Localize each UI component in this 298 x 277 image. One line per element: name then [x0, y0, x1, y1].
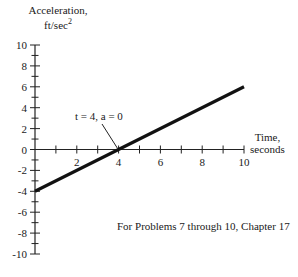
acceleration-line [35, 87, 244, 192]
x-tick-label: 4 [116, 156, 122, 168]
y-tick-label: 2 [22, 123, 28, 135]
x-tick-label: 8 [199, 156, 205, 168]
y-tick-label: 4 [22, 102, 28, 114]
y-tick-label: -10 [12, 248, 27, 260]
x-tick-label: 2 [74, 156, 80, 168]
x-axis-label: Time, seconds [250, 131, 285, 155]
x-axis-label-line2: seconds [250, 143, 285, 155]
zero-crossing-annotation: t = 4, a = 0 [75, 110, 123, 122]
y-tick-label: 8 [22, 60, 28, 72]
y-tick-label: -6 [18, 206, 28, 218]
x-tick-label: 10 [239, 156, 251, 168]
y-axis-label: Acceleration, ft/sec2 [18, 4, 98, 31]
y-tick-label: 10 [16, 39, 28, 51]
y-tick-label: 6 [22, 81, 28, 93]
x-axis-label-line1: Time, [250, 131, 285, 143]
y-axis-unit-exponent: 2 [68, 17, 72, 26]
y-tick-label: -8 [18, 227, 28, 239]
y-axis-label-line1: Acceleration, [29, 4, 88, 16]
x-tick-label: 6 [158, 156, 164, 168]
y-tick-label: -2 [18, 164, 27, 176]
y-axis-label-line2: ft/sec2 [18, 16, 98, 31]
annotation-leader-line [102, 124, 118, 149]
y-tick-label: -4 [18, 185, 28, 197]
problem-reference-note: For Problems 7 through 10, Chapter 17 [117, 220, 290, 232]
y-axis-unit: ft/sec [44, 19, 68, 31]
y-tick-label: 0 [22, 144, 28, 156]
